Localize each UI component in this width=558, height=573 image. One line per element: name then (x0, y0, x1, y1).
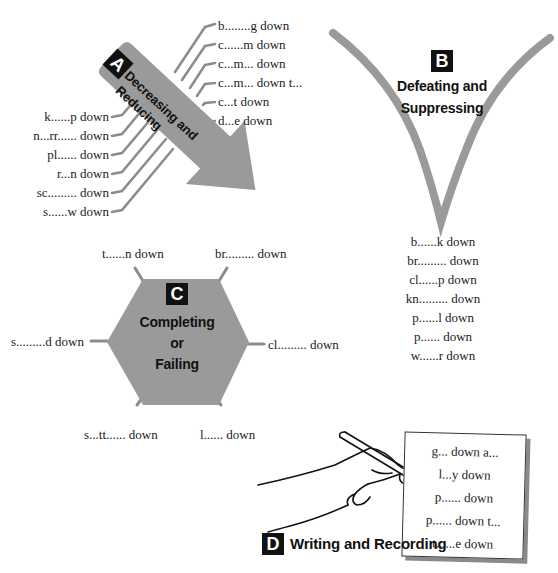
section-b-title-line1: Defeating and (392, 78, 492, 94)
section-c-title-line1: Completing (127, 314, 227, 330)
list-item: c...m... down (218, 55, 286, 72)
section-d-title: Writing and Recording (290, 535, 446, 552)
list-item: w......r down (378, 346, 508, 365)
section-c-item-top-right: br......... down (215, 245, 287, 262)
section-c-title-line3: Failing (127, 356, 227, 372)
section-d-badge: D (262, 533, 284, 555)
section-c-item-top-left: t......n down (102, 245, 164, 262)
list-item: c......m down (218, 36, 286, 53)
list-item: n...rr...... down (33, 127, 109, 144)
list-item: k......p down (44, 108, 109, 125)
section-d-hand-pencil (258, 432, 426, 532)
list-item: c...t down (218, 93, 269, 110)
section-b-title-line2: Suppressing (392, 100, 492, 116)
list-item: c...m... down t... (218, 74, 302, 91)
list-item: r...n down (57, 165, 109, 182)
section-c-item-bottom-right: l...... down (200, 426, 255, 443)
section-c-item-left: s.........d down (11, 333, 84, 350)
list-item: p......l down (378, 308, 508, 327)
section-c-title-line2: or (127, 335, 227, 351)
list-item: p...... down (404, 484, 525, 510)
list-item: br......... down (378, 251, 508, 270)
list-item: b......k down (378, 232, 508, 251)
list-item: g... down a... (405, 438, 526, 464)
section-b-list: b......k down br......... down cl......p… (378, 232, 508, 365)
list-item: p...... down (378, 327, 508, 346)
list-item: sc......... down (37, 184, 109, 201)
section-b-badge: B (431, 50, 453, 72)
list-item: s......w down (43, 203, 109, 220)
list-item: b........g down (218, 17, 289, 34)
list-item: p...... down t... (403, 507, 524, 533)
list-item: l...y down (404, 461, 525, 487)
list-item: pl...... down (47, 146, 109, 163)
list-item: d...e down (218, 112, 272, 129)
list-item: kn......... down (378, 289, 508, 308)
list-item: cl......p down (378, 270, 508, 289)
section-c-item-bottom-left: s...tt...... down (84, 426, 158, 443)
section-c-item-right: cl......... down (268, 336, 339, 353)
section-c-badge: C (166, 283, 188, 305)
